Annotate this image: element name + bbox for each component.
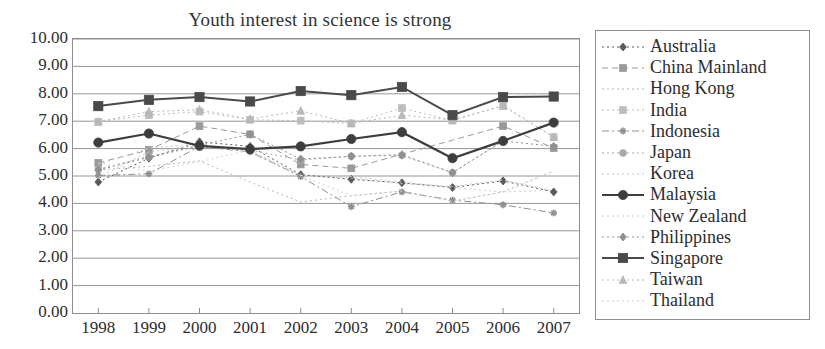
y-axis-tick-label: 9.00 xyxy=(2,56,68,73)
legend-label: Korea xyxy=(646,164,694,183)
legend-item-new-zealand[interactable]: New Zealand xyxy=(596,206,809,227)
x-axis: 1998199920002001200220032004200520062007 xyxy=(72,318,580,344)
legend-item-korea[interactable]: Korea xyxy=(596,163,809,184)
series-canvas xyxy=(73,39,579,313)
x-axis-tick-label: 2000 xyxy=(172,318,228,338)
legend-item-china-mainland[interactable]: China Mainland xyxy=(596,57,809,78)
data-point xyxy=(398,111,406,119)
data-point xyxy=(296,142,305,151)
data-point xyxy=(196,123,203,130)
data-point xyxy=(297,173,304,180)
data-point xyxy=(297,117,304,124)
x-axis-tick-label: 2006 xyxy=(475,318,531,338)
data-point xyxy=(500,201,507,208)
legend-item-singapore[interactable]: Singapore xyxy=(596,248,809,269)
data-point xyxy=(94,102,103,111)
legend-label: Hong Kong xyxy=(646,79,735,98)
y-axis-tick-label: 3.00 xyxy=(2,221,68,238)
data-point xyxy=(399,179,406,187)
y-axis: 10.009.008.007.006.005.004.003.002.001.0… xyxy=(0,38,68,314)
data-point xyxy=(94,138,103,147)
x-axis-tick-label: 2003 xyxy=(323,318,379,338)
legend-item-malaysia[interactable]: Malaysia xyxy=(596,184,809,205)
legend-label: Philippines xyxy=(646,228,731,247)
data-point xyxy=(144,129,153,138)
legend-key-square-icon xyxy=(600,59,646,77)
legend-key-triangle-icon xyxy=(600,271,646,289)
chart-container: Youth interest in science is strong 10.0… xyxy=(0,0,825,349)
legend-label: India xyxy=(646,101,687,120)
legend-item-philippines[interactable]: Philippines xyxy=(596,227,809,248)
x-axis-tick-label: 2005 xyxy=(425,318,481,338)
data-point xyxy=(550,210,557,217)
legend-item-australia[interactable]: Australia xyxy=(596,36,809,57)
data-point xyxy=(549,92,558,101)
legend-item-japan[interactable]: Japan xyxy=(596,142,809,163)
data-point xyxy=(347,134,356,143)
y-axis-tick-label: 10.00 xyxy=(2,29,68,46)
y-axis-tick-label: 2.00 xyxy=(2,248,68,265)
legend-key-diamond-icon xyxy=(600,228,646,246)
y-axis-tick-label: 1.00 xyxy=(2,276,68,293)
chart-title: Youth interest in science is strong xyxy=(60,9,580,31)
data-point xyxy=(348,165,355,172)
x-axis-tick-label: 1998 xyxy=(70,318,126,338)
data-point xyxy=(348,203,355,210)
legend-label: Japan xyxy=(646,143,691,162)
x-axis-tick-label: 2001 xyxy=(222,318,278,338)
legend-key-square-icon xyxy=(600,249,646,267)
data-point xyxy=(499,136,508,145)
legend-item-taiwan[interactable]: Taiwan xyxy=(596,269,809,290)
data-point xyxy=(145,107,153,115)
series-japan xyxy=(95,119,557,176)
series-new-zealand xyxy=(98,144,553,192)
y-axis-tick-label: 0.00 xyxy=(2,303,68,320)
legend-key-none-icon xyxy=(600,80,646,98)
data-point xyxy=(448,111,457,120)
y-axis-tick-label: 4.00 xyxy=(2,193,68,210)
data-point xyxy=(397,128,406,137)
legend-key-star-icon xyxy=(600,122,646,140)
legend-label: Malaysia xyxy=(646,185,716,204)
legend-item-thailand[interactable]: Thailand xyxy=(596,290,809,311)
data-point xyxy=(95,178,102,186)
data-point xyxy=(144,95,153,104)
legend-item-hong-kong[interactable]: Hong Kong xyxy=(596,78,809,99)
data-point xyxy=(499,92,508,101)
legend-key-none-icon xyxy=(600,165,646,183)
y-axis-tick-label: 6.00 xyxy=(2,139,68,156)
legend-key-none-icon xyxy=(600,207,646,225)
data-point xyxy=(549,118,558,127)
legend-key-square-icon xyxy=(600,101,646,119)
legend-key-none-icon xyxy=(600,292,646,310)
data-point xyxy=(399,188,406,195)
legend[interactable]: AustraliaChina MainlandHong KongIndiaInd… xyxy=(595,30,810,320)
x-axis-tick-label: 2002 xyxy=(273,318,329,338)
legend-label: Singapore xyxy=(646,249,723,268)
series-hong-kong xyxy=(98,161,553,202)
y-axis-tick-label: 5.00 xyxy=(2,166,68,183)
legend-item-indonesia[interactable]: Indonesia xyxy=(596,121,809,142)
legend-key-circle-icon xyxy=(600,186,646,204)
data-point xyxy=(500,123,507,130)
legend-key-circle-icon xyxy=(600,144,646,162)
legend-key-diamond-icon xyxy=(600,38,646,56)
x-axis-tick-label: 1999 xyxy=(121,318,177,338)
legend-label: New Zealand xyxy=(646,207,746,226)
x-axis-tick-label: 2007 xyxy=(526,318,582,338)
data-point xyxy=(195,92,204,101)
legend-item-india[interactable]: India xyxy=(596,100,809,121)
data-point xyxy=(347,91,356,100)
legend-label: Thailand xyxy=(646,291,714,310)
data-point xyxy=(448,154,457,163)
data-point xyxy=(246,97,255,106)
y-axis-tick-label: 7.00 xyxy=(2,111,68,128)
series-malaysia xyxy=(94,118,559,163)
data-point xyxy=(449,197,456,204)
legend-label: Taiwan xyxy=(646,270,703,289)
data-point xyxy=(550,188,557,196)
legend-label: Indonesia xyxy=(646,122,720,141)
data-point xyxy=(397,82,406,91)
series-indonesia xyxy=(95,143,557,216)
data-point xyxy=(195,141,204,150)
